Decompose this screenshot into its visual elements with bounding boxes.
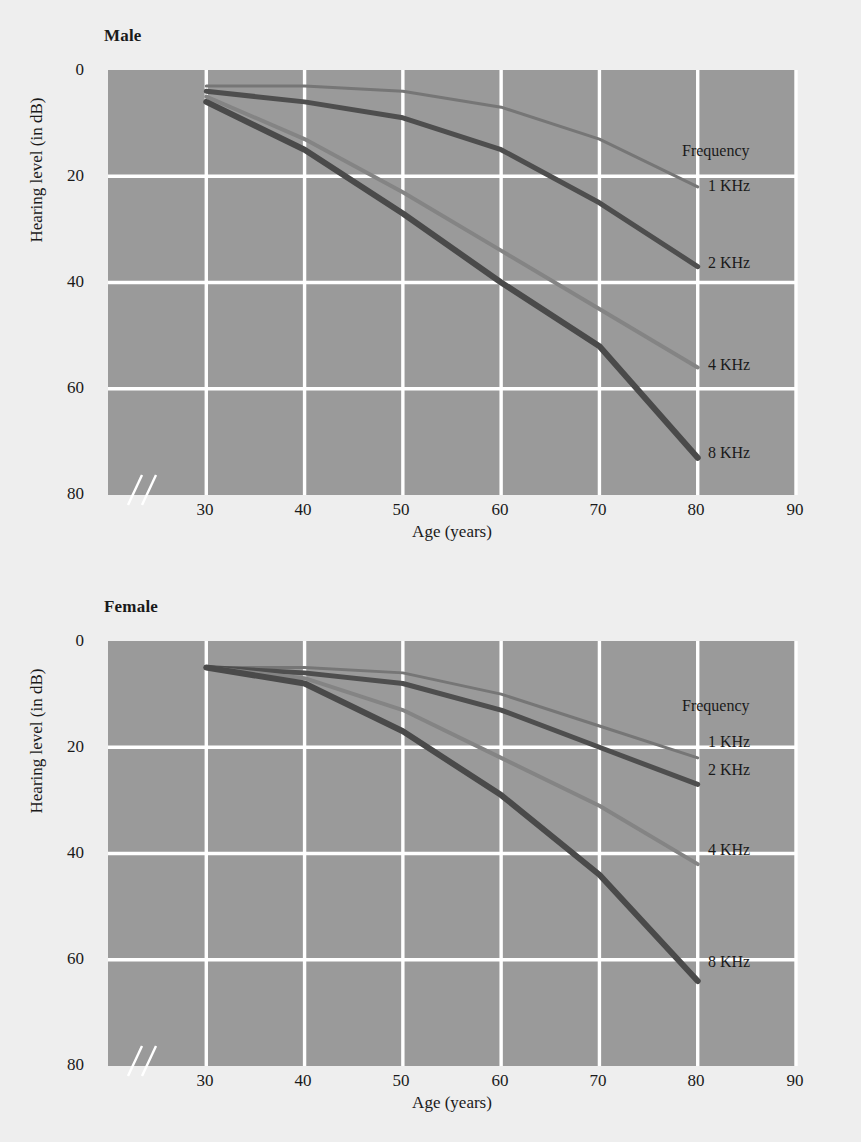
y-tick-20: 20 [44, 737, 84, 757]
series-label-8khz-female: 8 KHz [708, 953, 750, 971]
y-tick-0: 0 [44, 631, 84, 651]
legend-heading-female: Frequency [682, 697, 750, 715]
series-label-1khz-male: 1 KHz [708, 177, 750, 195]
y-tick-0: 0 [44, 60, 84, 80]
legend-heading-male: Frequency [682, 142, 750, 160]
series-label-8khz-male: 8 KHz [708, 444, 750, 462]
y-tick-80: 80 [44, 484, 84, 504]
x-tick-40: 40 [283, 500, 323, 520]
x-axis-label-male: Age (years) [108, 522, 796, 542]
x-tick-40: 40 [283, 1071, 323, 1091]
x-tick-90: 90 [775, 500, 815, 520]
series-label-4khz-female: 4 KHz [708, 841, 750, 859]
y-tick-40: 40 [44, 272, 84, 292]
x-tick-50: 50 [381, 1071, 421, 1091]
y-tick-60: 60 [44, 378, 84, 398]
series-label-2khz-male: 2 KHz [708, 254, 750, 272]
x-tick-80: 80 [676, 500, 716, 520]
panel-male: Male Hearing level (in dB) Age (years) 0… [0, 0, 861, 571]
y-tick-20: 20 [44, 166, 84, 186]
x-axis-label-female: Age (years) [108, 1093, 796, 1113]
x-tick-50: 50 [381, 500, 421, 520]
x-tick-30: 30 [185, 500, 225, 520]
y-tick-40: 40 [44, 843, 84, 863]
plot-area-male [0, 0, 861, 571]
x-tick-30: 30 [185, 1071, 225, 1091]
x-tick-70: 70 [578, 500, 618, 520]
panel-female: Female Hearing level (in dB) Age (years)… [0, 571, 861, 1142]
x-tick-60: 60 [480, 1071, 520, 1091]
x-tick-70: 70 [578, 1071, 618, 1091]
x-tick-90: 90 [775, 1071, 815, 1091]
x-tick-60: 60 [480, 500, 520, 520]
y-tick-60: 60 [44, 949, 84, 969]
series-label-1khz-female: 1 KHz [708, 733, 750, 751]
figure-page: Male Hearing level (in dB) Age (years) 0… [0, 0, 861, 1142]
y-tick-80: 80 [44, 1055, 84, 1075]
x-tick-80: 80 [676, 1071, 716, 1091]
series-label-4khz-male: 4 KHz [708, 356, 750, 374]
series-label-2khz-female: 2 KHz [708, 761, 750, 779]
